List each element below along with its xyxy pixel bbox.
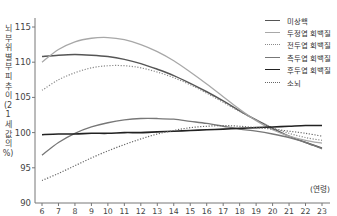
series-line-3 xyxy=(42,118,322,155)
x-tick-label: 16 xyxy=(202,207,212,216)
legend-label: 후두엽 회백질 xyxy=(287,64,331,75)
legend-swatch-icon xyxy=(265,32,280,33)
legend-item: 후두엽 회백질 xyxy=(265,64,337,76)
chart-legend: 미상핵두정엽 회백질전두엽 회백질측두엽 회백질후두엽 회백질소뇌 xyxy=(265,14,337,88)
legend-label: 두정엽 회백질 xyxy=(287,27,331,38)
x-tick-label: 12 xyxy=(136,207,146,216)
y-tick-label: 90 xyxy=(20,198,31,208)
x-tick-label: 23 xyxy=(317,207,327,216)
y-tick-label: 105 xyxy=(15,92,31,102)
legend-swatch-icon xyxy=(265,82,280,83)
x-tick-label: 8 xyxy=(72,207,77,216)
legend-item: 전두엽 회백질 xyxy=(265,39,337,51)
x-tick-label: 10 xyxy=(103,207,113,216)
legend-item: 측두엽 회백질 xyxy=(265,51,337,63)
y-tick-label: 95 xyxy=(20,163,31,173)
x-tick-label: 19 xyxy=(251,207,261,216)
x-tick-label: 22 xyxy=(301,207,311,216)
legend-label: 전두엽 회백질 xyxy=(287,39,331,50)
x-axis-ticks: 67891011121314151617181920212223 xyxy=(40,203,327,216)
y-tick-label: 110 xyxy=(15,57,31,67)
legend-swatch-icon xyxy=(265,44,280,45)
legend-item: 미상핵 xyxy=(265,14,337,26)
x-tick-label: 15 xyxy=(185,207,195,216)
y-tick-label: 115 xyxy=(15,22,31,32)
x-tick-label: 17 xyxy=(218,207,228,216)
legend-swatch-icon xyxy=(265,57,280,58)
x-axis-label: (연령) xyxy=(310,183,330,194)
y-axis-label: 뇌 부위별 부피 추이 (21세 값의 %) xyxy=(2,24,14,158)
legend-label: 미상핵 xyxy=(287,15,308,26)
legend-label: 측두엽 회백질 xyxy=(287,52,331,63)
legend-swatch-icon xyxy=(265,69,280,70)
x-tick-label: 14 xyxy=(169,207,179,216)
legend-item: 소뇌 xyxy=(265,76,337,88)
y-axis-ticks: 9095100105110115 xyxy=(15,22,35,208)
legend-label: 소뇌 xyxy=(287,77,301,88)
y-tick-label: 100 xyxy=(15,128,31,138)
x-tick-label: 11 xyxy=(119,207,129,216)
x-tick-label: 18 xyxy=(235,207,245,216)
x-tick-label: 13 xyxy=(152,207,162,216)
x-tick-label: 9 xyxy=(89,207,94,216)
x-tick-label: 6 xyxy=(40,207,45,216)
x-tick-label: 21 xyxy=(284,207,294,216)
legend-item: 두정엽 회백질 xyxy=(265,26,337,38)
x-tick-label: 20 xyxy=(268,207,278,216)
x-tick-label: 7 xyxy=(56,207,61,216)
legend-swatch-icon xyxy=(265,20,280,21)
